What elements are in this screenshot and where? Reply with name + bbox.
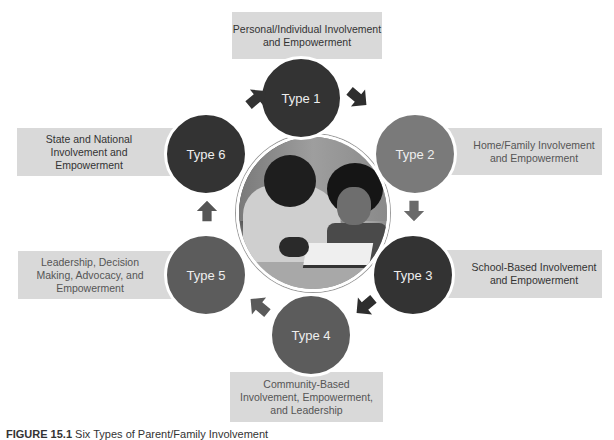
type1-description-line: Personal/Individual Involvement <box>233 23 381 36</box>
figure-label: FIGURE 15.1 <box>6 428 72 440</box>
type6-description-line: Involvement and <box>46 146 132 159</box>
type6-description-line: Empowerment <box>46 159 132 172</box>
type5-description-line: Making, Advocacy, and <box>36 269 143 282</box>
type5-description-line: Leadership, Decision <box>36 256 143 269</box>
type1-label: Type 1 <box>281 91 320 106</box>
book-icon <box>303 243 373 268</box>
type5-label: Type 5 <box>186 268 225 283</box>
type6-description-line: State and National <box>46 133 132 146</box>
type6-label: Type 6 <box>186 147 225 162</box>
type2-circle: Type 2 <box>373 112 457 196</box>
type4-label: Type 4 <box>291 328 330 343</box>
type3-description-box: School-Based Involvement and Empowerment <box>440 250 602 298</box>
type2-description-line: Home/Family Involvement <box>473 139 594 152</box>
figure-caption: FIGURE 15.1 Six Types of Parent/Family I… <box>6 428 268 440</box>
type2-description-box: Home/Family Involvement and Empowerment <box>440 128 602 175</box>
type4-description-box: Community-Based Involvement, Empowerment… <box>230 372 383 422</box>
type2-label: Type 2 <box>395 147 434 162</box>
type1-description-line: and Empowerment <box>233 36 381 49</box>
type6-circle: Type 6 <box>164 112 248 196</box>
type5-description-line: Empowerment <box>36 282 143 295</box>
type3-description-line: and Empowerment <box>472 274 597 287</box>
type4-description-line: Community-Based <box>240 378 373 391</box>
type2-description-line: and Empowerment <box>473 152 594 165</box>
figure-caption-text: Six Types of Parent/Family Involvement <box>75 428 268 440</box>
type3-description-line: School-Based Involvement <box>472 261 597 274</box>
type1-description-box: Personal/Individual Involvement and Empo… <box>232 12 382 59</box>
type3-label: Type 3 <box>393 268 432 283</box>
type4-circle: Type 4 <box>269 293 353 377</box>
type4-description-line: and Leadership <box>240 404 373 417</box>
type4-description-line: Involvement, Empowerment, <box>240 391 373 404</box>
parent-child-reading-photo <box>236 134 390 292</box>
type5-circle: Type 5 <box>164 233 248 317</box>
type3-circle: Type 3 <box>371 233 455 317</box>
